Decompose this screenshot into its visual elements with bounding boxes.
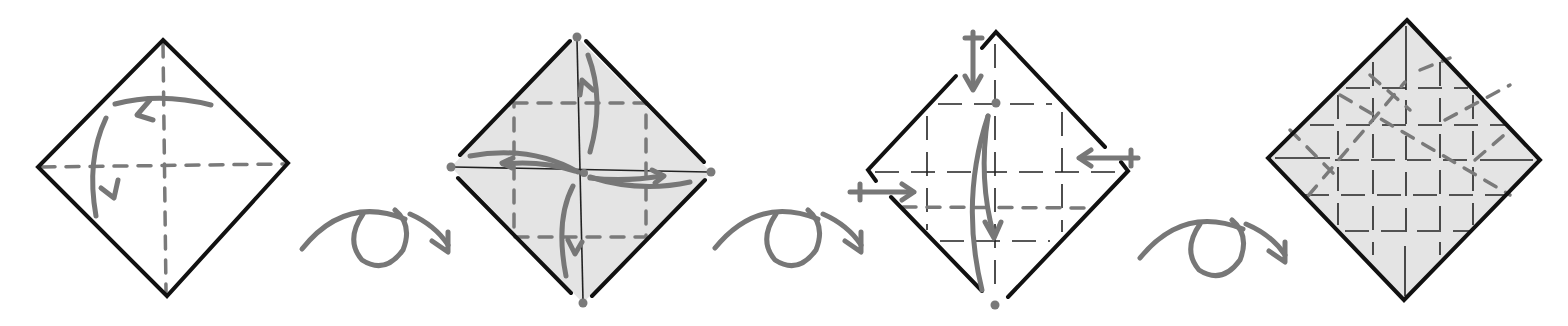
step-2 (447, 33, 716, 308)
step-1-creases (42, 44, 284, 292)
step-3-creases (875, 44, 1118, 290)
push-arrow-icon (850, 184, 914, 200)
turn-over-arrow-icon (715, 210, 861, 266)
reference-dot-icon (707, 168, 716, 177)
turn-over-arrow-icon (1140, 220, 1285, 276)
push-arrow-icon (1079, 150, 1138, 166)
reference-dot-icon (580, 169, 588, 177)
step-1 (38, 40, 288, 296)
reference-dot-icon (447, 163, 456, 172)
reference-dot-icon (991, 301, 1000, 310)
step-3 (850, 32, 1138, 310)
curved-fold-arrow-icon (972, 116, 1001, 290)
step-4 (1268, 20, 1540, 300)
reference-dot-icon (992, 99, 1001, 108)
reference-dot-icon (579, 299, 588, 308)
reference-dot-icon (573, 33, 582, 42)
push-arrow-icon (965, 32, 982, 90)
turn-over-arrow-icon (302, 210, 448, 266)
origami-diagram-canvas (0, 0, 1568, 326)
